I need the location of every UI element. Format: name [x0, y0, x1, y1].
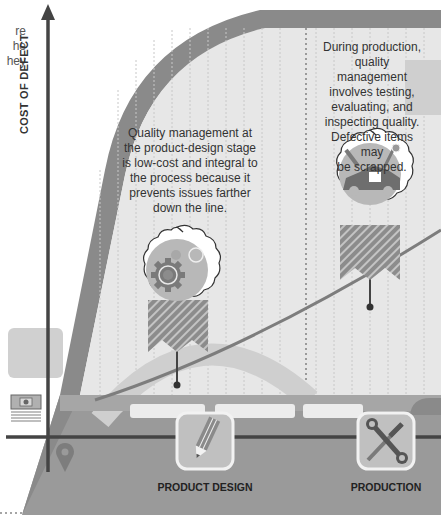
description-line: evaluating, and	[318, 100, 426, 115]
description-line: inspecting quality.	[318, 115, 426, 130]
description-line: is low-cost and integral to	[105, 156, 275, 171]
y-axis-arrow	[41, 4, 55, 20]
description-line: the process because it	[105, 171, 275, 186]
description-line: down the line.	[105, 201, 275, 216]
stage-label-production: PRODUCTION	[345, 481, 427, 493]
wrench-screwdriver-icon	[358, 413, 414, 469]
vent-right	[303, 404, 363, 418]
description-line: be scrapped.	[318, 160, 426, 175]
description-line: prevents issues farther	[105, 186, 275, 201]
description-line: quality management	[318, 55, 426, 85]
y-axis-label: COST OF DEFECT	[18, 34, 38, 134]
product-design-description: Quality management at the product-design…	[105, 126, 275, 216]
pencil-icon	[177, 413, 233, 469]
description-line: involves testing,	[318, 85, 426, 100]
description-line: Defective items may	[318, 130, 426, 160]
description-line: Quality management at	[105, 126, 275, 141]
left-panel	[8, 328, 63, 378]
stage-label-product-design: PRODUCT DESIGN	[155, 481, 255, 493]
description-line: During production,	[318, 40, 426, 55]
banknote-stack-icon	[11, 395, 41, 421]
description-line: the product-design stage	[105, 141, 275, 156]
production-description: During production, quality management in…	[318, 40, 426, 175]
